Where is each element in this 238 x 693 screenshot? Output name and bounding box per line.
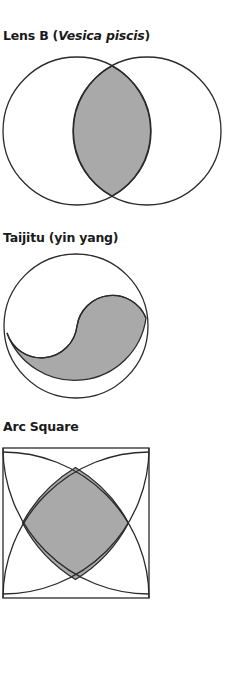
arcsquare-shaded-region — [23, 468, 129, 580]
arcsquare-diagram — [0, 0, 238, 610]
